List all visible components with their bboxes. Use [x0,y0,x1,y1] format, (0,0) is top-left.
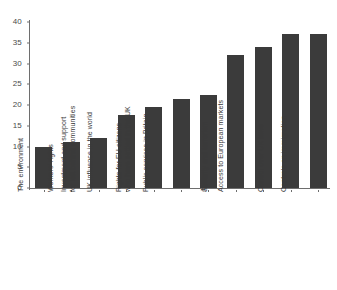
x-axis-label-line: The environment [17,138,26,192]
x-axis-label-line: who have settled in the UK [123,106,132,192]
x-label-slot: Investment and supportfor left behind co… [85,190,112,290]
bar[interactable] [173,99,190,188]
y-tick-label: 20 [13,101,22,109]
x-label-slot: Workers' rights [57,190,84,290]
x-label-slot: Public services in Britain [167,190,194,290]
bar-chart: 0510152025303540 The environmentWorkers'… [0,0,337,290]
x-label-slot: Security and terrorism [222,190,249,290]
x-tick-mark [99,190,100,192]
x-axis-label: Rights for EU citizenswho have settled i… [115,106,132,192]
x-axis-label-line: Rights for EU citizens [115,106,124,192]
x-axis-label-line: Investment and support [60,106,69,192]
x-axis-category-labels: The environmentWorkers' rightsInvestment… [30,190,332,290]
bar-slot [173,22,190,188]
x-axis-label-line: for left behind communities [68,106,77,192]
x-tick-mark [154,190,155,192]
x-axis-label: Investment and supportfor left behind co… [60,106,77,192]
bar[interactable] [227,55,244,188]
x-tick-mark [291,190,292,192]
x-label-slot: UK influence in the world [112,190,139,290]
y-tick-label: 40 [13,18,22,26]
bar-slot [310,22,327,188]
x-label-slot: Controls on immigration [305,190,332,290]
x-axis-label-line: Public services in Britain [142,114,151,192]
x-axis-label: Control over UK laws [257,124,266,192]
x-axis-label-line: Controls on immigration [280,116,289,192]
y-tick-label: 25 [13,80,22,88]
x-axis-label-line: Control over UK laws [257,124,266,192]
x-tick-mark [318,190,319,192]
x-axis-label-line: Workers' rights [47,144,56,192]
x-tick-mark [181,190,182,192]
x-axis-label: The environment [17,138,26,192]
x-axis-label: Controls on immigration [280,116,289,192]
x-label-slot: Jobs [195,190,222,290]
bar[interactable] [310,34,327,188]
x-tick-mark [44,190,45,192]
x-axis-label-line: Access to European markets [217,100,226,192]
y-axis-tick-labels: 0510152025303540 [0,0,30,290]
x-axis-label-line: Security and terrorism [201,121,210,192]
x-tick-mark [236,190,237,192]
x-axis-label: UK influence in the world [86,112,95,192]
x-axis-label: Security and terrorism [201,121,210,192]
x-axis-label: Public services in Britain [142,114,151,192]
x-label-slot: Access to European markets [250,190,277,290]
bar-slot [227,22,244,188]
x-axis-label: Access to European markets [217,100,226,192]
y-tick-label: 30 [13,60,22,68]
x-label-slot: Control over UK laws [277,190,304,290]
x-axis-label: Workers' rights [47,144,56,192]
x-label-slot: The environment [30,190,57,290]
x-label-slot: Rights for EU citizenswho have settled i… [140,190,167,290]
y-tick-label: 35 [13,39,22,47]
x-axis-label-line: UK influence in the world [86,112,95,192]
y-tick-label: 15 [13,122,22,130]
